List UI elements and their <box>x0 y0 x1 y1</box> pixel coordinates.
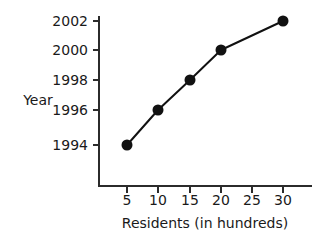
y-tick-label-1994: 1994 <box>52 137 88 153</box>
y-tick-label-2002: 2002 <box>52 13 88 29</box>
data-point-10-1996 <box>153 105 164 116</box>
line-chart: 2002 2000 1998 1996 1994 5 10 15 20 25 3… <box>0 0 322 240</box>
x-tick-label-10: 10 <box>149 192 167 208</box>
data-series-year-vs-residents <box>122 16 289 151</box>
x-axis-title: Residents (in hundreds) <box>122 215 288 231</box>
y-tick-label-1996: 1996 <box>52 102 88 118</box>
y-tick-label-1998: 1998 <box>52 72 88 88</box>
y-axis-title: Year <box>22 92 53 108</box>
data-point-30-2002 <box>278 16 289 27</box>
x-tick-label-25: 25 <box>243 192 261 208</box>
data-point-20-2000 <box>216 45 227 56</box>
data-point-15-1998 <box>185 75 196 86</box>
data-point-5-1994 <box>122 140 133 151</box>
x-tick-label-15: 15 <box>181 192 199 208</box>
y-tick-label-2000: 2000 <box>52 42 88 58</box>
series-line-path <box>127 21 283 145</box>
chart-figure: 2002 2000 1998 1996 1994 5 10 15 20 25 3… <box>0 0 322 240</box>
x-tick-label-5: 5 <box>123 192 132 208</box>
x-tick-label-30: 30 <box>274 192 292 208</box>
x-tick-label-20: 20 <box>212 192 230 208</box>
